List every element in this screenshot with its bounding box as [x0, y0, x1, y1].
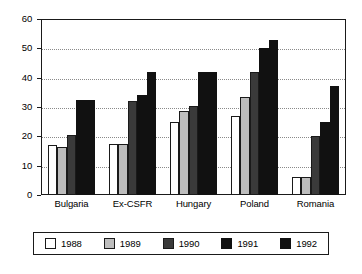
bar-chart: 0102030405060 BulgariaEx-CSFRHungaryPola…: [0, 0, 362, 274]
legend-item-1990: 1990: [163, 238, 200, 249]
bar-ex-csfr-1990: [128, 101, 138, 195]
y-axis-tick: [37, 78, 41, 79]
bar-poland-1990: [250, 72, 260, 195]
bar-romania-1988: [292, 177, 302, 195]
legend-label-1991: 1991: [237, 238, 258, 249]
bar-bulgaria-1992: [86, 100, 96, 195]
bar-hungary-1989: [179, 111, 189, 195]
y-axis-tick-label: 10: [22, 161, 32, 171]
x-axis-category-label: Bulgaria: [41, 198, 102, 209]
legend-item-1992: 1992: [280, 238, 317, 249]
bar-poland-1991: [259, 48, 269, 195]
bar-bulgaria-1989: [57, 147, 67, 195]
bar-hungary-1992: [208, 72, 218, 195]
bar-group: [41, 19, 102, 195]
bar-group: [163, 19, 224, 195]
bar-bulgaria-1991: [76, 100, 86, 195]
bar-poland-1989: [240, 97, 250, 195]
bar-group: [285, 19, 346, 195]
x-axis-labels: BulgariaEx-CSFRHungaryPolandRomania: [41, 198, 346, 209]
legend-label-1988: 1988: [61, 238, 82, 249]
bar-bulgaria-1988: [48, 145, 58, 195]
legend-item-1989: 1989: [104, 238, 141, 249]
bar-poland-1988: [231, 116, 241, 195]
y-axis-tick-label: 20: [22, 132, 32, 142]
bar-poland-1992: [269, 40, 279, 195]
bar-ex-csfr-1991: [137, 95, 147, 195]
x-axis-category-label: Ex-CSFR: [102, 198, 163, 209]
legend-swatch-1990: [163, 238, 174, 249]
bar-group: [224, 19, 285, 195]
x-axis-category-label: Hungary: [163, 198, 224, 209]
bar-ex-csfr-1988: [109, 144, 119, 195]
legend-swatch-1988: [45, 238, 56, 249]
legend-swatch-1991: [221, 238, 232, 249]
bar-hungary-1990: [189, 106, 199, 195]
bar-romania-1991: [320, 122, 330, 195]
bar-romania-1990: [311, 136, 321, 195]
bar-hungary-1988: [170, 122, 180, 195]
x-axis-category-label: Romania: [285, 198, 346, 209]
bar-ex-csfr-1989: [118, 144, 128, 195]
y-axis-tick-label: 0: [27, 190, 32, 200]
y-axis-tick: [37, 107, 41, 108]
y-axis-tick-label: 50: [22, 44, 32, 54]
bar-ex-csfr-1992: [147, 72, 157, 195]
y-axis-tick: [37, 19, 41, 20]
legend-item-1991: 1991: [221, 238, 258, 249]
legend-swatch-1992: [280, 238, 291, 249]
bar-group: [102, 19, 163, 195]
bar-romania-1989: [301, 177, 311, 195]
y-axis-labels: 0102030405060: [0, 19, 36, 195]
legend-label-1992: 1992: [296, 238, 317, 249]
y-axis-tick: [37, 195, 41, 196]
legend-label-1990: 1990: [179, 238, 200, 249]
y-axis-tick: [37, 48, 41, 49]
x-axis-category-label: Poland: [224, 198, 285, 209]
legend-swatch-1989: [104, 238, 115, 249]
y-axis-tick-label: 30: [22, 102, 32, 112]
y-axis-tick: [37, 136, 41, 137]
y-axis-tick: [37, 166, 41, 167]
bar-bulgaria-1990: [67, 135, 77, 195]
bar-groups: [41, 19, 346, 195]
y-axis-tick-label: 60: [22, 14, 32, 24]
chart-legend: 19881989199019911992: [33, 232, 329, 255]
bar-hungary-1991: [198, 72, 208, 195]
bar-romania-1992: [330, 86, 340, 195]
legend-label-1989: 1989: [120, 238, 141, 249]
y-axis-tick-label: 40: [22, 73, 32, 83]
legend-item-1988: 1988: [45, 238, 82, 249]
